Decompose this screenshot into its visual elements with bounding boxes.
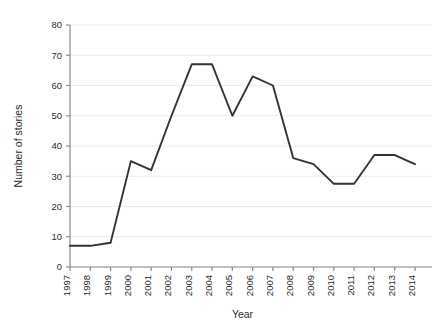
x-axis-title: Year [232,308,254,320]
y-tick-labels: 01020304050607080 [51,19,62,272]
y-tick-label: 20 [51,201,62,212]
x-tick-label: 2003 [183,275,194,296]
x-tick-label: 2002 [162,275,173,296]
x-tick-label: 2009 [305,275,316,296]
x-tick-label: 2004 [203,275,214,296]
x-tick-label: 2005 [223,275,234,296]
x-tick-label: 2010 [325,275,336,296]
x-tick-label: 2007 [264,275,275,296]
x-tick-label: 2006 [244,275,255,296]
y-tick-label: 70 [51,50,62,61]
data-series-line [70,64,415,246]
x-tick-label: 2008 [284,275,295,296]
y-tick-label: 30 [51,171,62,182]
x-tick-label: 1997 [61,275,72,296]
x-tick-label: 2001 [142,275,153,296]
x-tick-label: 2000 [122,275,133,296]
x-tick-label: 2011 [345,275,356,295]
x-tick-label: 1999 [102,275,113,296]
y-tick-label: 10 [51,231,62,242]
y-tick-label: 60 [51,80,62,91]
x-tick-label: 2014 [406,275,417,296]
y-tick-label: 50 [51,110,62,121]
gridlines [70,25,432,267]
y-tick-label: 80 [51,19,62,30]
y-tick-label: 0 [57,261,62,272]
x-tick-label: 1998 [81,275,92,296]
y-tick-label: 40 [51,140,62,151]
y-axis-title: Number of stories [12,105,24,188]
line-chart: 01020304050607080 1997199819992000200120… [0,0,444,329]
x-tick-label: 2012 [365,275,376,296]
x-tick-labels: 1997199819992000200120022003200420052006… [61,275,417,296]
x-tick-label: 2013 [386,275,397,296]
chart-canvas: 01020304050607080 1997199819992000200120… [0,0,444,329]
